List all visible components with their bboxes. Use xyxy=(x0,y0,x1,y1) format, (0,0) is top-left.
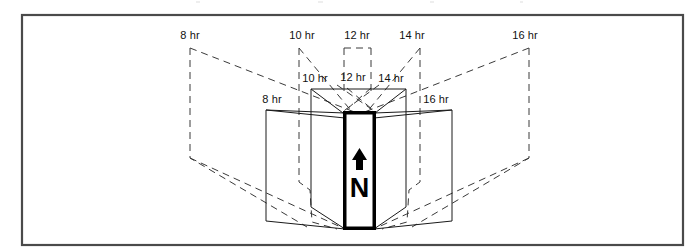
label-outer-16hr: 16 hr xyxy=(512,29,538,41)
label-outer-12hr: 12 hr xyxy=(344,29,370,41)
label-inner-8hr: 8 hr xyxy=(262,93,282,105)
building-block: N xyxy=(343,111,376,230)
label-inner-16hr: 16 hr xyxy=(423,93,449,105)
figure-root: N 8 hr 10 hr 12 hr 14 hr 16 hr 10 hr 12 … xyxy=(0,0,693,252)
scan-artifacts xyxy=(196,1,523,3)
label-inner-10hr: 10 hr xyxy=(302,72,328,84)
label-outer-8hr: 8 hr xyxy=(180,29,200,41)
building-fill xyxy=(347,115,373,227)
shadow-study-diagram: N 8 hr 10 hr 12 hr 14 hr 16 hr 10 hr 12 … xyxy=(0,0,693,252)
label-inner-14hr: 14 hr xyxy=(378,72,404,84)
label-outer-10hr: 10 hr xyxy=(289,29,315,41)
north-letter: N xyxy=(350,173,370,203)
label-inner-12hr: 12 hr xyxy=(340,71,366,83)
label-outer-14hr: 14 hr xyxy=(399,29,425,41)
